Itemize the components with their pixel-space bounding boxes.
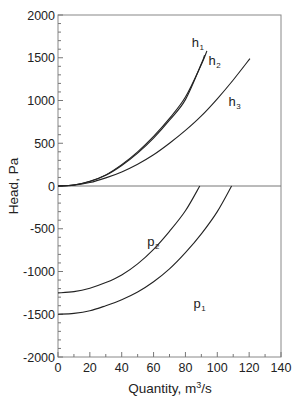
y-tick-label: -2000 bbox=[23, 351, 55, 365]
y-tick-label: 1500 bbox=[27, 51, 55, 65]
y-tick-label: -500 bbox=[30, 222, 55, 236]
curve-label-h3: h3 bbox=[228, 94, 241, 111]
series-line-h3 bbox=[58, 59, 250, 186]
curve-label-p2: p2 bbox=[147, 234, 160, 251]
chart: 020406080100120140 2000150010005000-500-… bbox=[0, 0, 299, 404]
series-line-h1 bbox=[58, 51, 207, 186]
x-tick-label: 120 bbox=[239, 361, 260, 375]
curve-label-h1: h1 bbox=[192, 35, 205, 52]
x-tick-label: 100 bbox=[207, 361, 228, 375]
x-tick-label: 80 bbox=[178, 361, 192, 375]
x-tick-label: 40 bbox=[115, 361, 129, 375]
series-line-p2 bbox=[58, 186, 200, 293]
x-tick-labels: 020406080100120140 bbox=[55, 361, 292, 375]
y-tick-label: 0 bbox=[48, 180, 55, 194]
y-tick-label: 500 bbox=[34, 137, 55, 151]
plot-area: 020406080100120140 2000150010005000-500-… bbox=[23, 9, 291, 376]
curves bbox=[58, 51, 250, 314]
y-tick-label: 2000 bbox=[27, 9, 55, 23]
series-line-h2 bbox=[58, 55, 205, 186]
y-axis-title: Head, Pa bbox=[6, 157, 21, 214]
x-tick-label: 20 bbox=[83, 361, 97, 375]
y-tick-label: -1500 bbox=[23, 308, 55, 322]
x-tick-label: 140 bbox=[271, 361, 292, 375]
y-tick-labels: 2000150010005000-500-1000-1500-2000 bbox=[23, 9, 55, 365]
curve-label-h2: h2 bbox=[209, 53, 222, 70]
curve-label-p1: p1 bbox=[193, 296, 206, 313]
curve-labels: h1h2h3p1p2 bbox=[147, 35, 241, 313]
x-tick-label: 0 bbox=[55, 361, 62, 375]
series-line-p1 bbox=[58, 186, 232, 314]
y-tick-label: -1000 bbox=[23, 265, 55, 279]
x-axis-title: Quantity, m3/s bbox=[128, 380, 212, 396]
y-tick-label: 1000 bbox=[27, 94, 55, 108]
x-tick-label: 60 bbox=[147, 361, 161, 375]
